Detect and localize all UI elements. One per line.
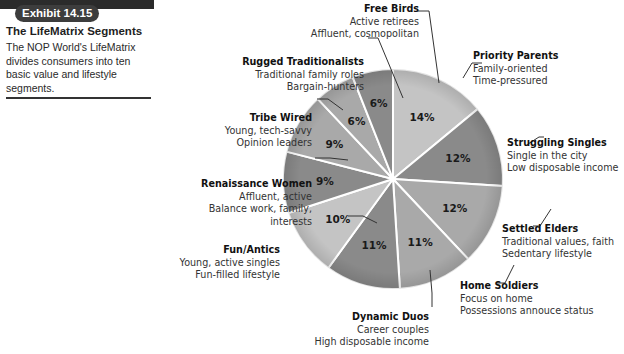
- segment-trait: Affluent, cosmopolitan: [311, 28, 419, 41]
- label-fun-antics: Fun/Antics Young, active singles Fun-fil…: [180, 244, 280, 282]
- label-tribe-wired: Tribe Wired Young, tech-savvy Opinion le…: [225, 112, 312, 150]
- segment-name: Dynamic Duos: [314, 311, 429, 324]
- segment-trait: Young, active singles: [180, 257, 280, 270]
- slice-percent: 6%: [348, 115, 366, 127]
- slice-percent: 9%: [316, 175, 334, 187]
- slice-percent: 12%: [442, 202, 468, 214]
- segment-trait: interests: [201, 216, 312, 229]
- slice-percent: 12%: [445, 152, 471, 164]
- segment-name: Tribe Wired: [225, 112, 312, 125]
- label-settled-elders: Settled Elders Traditional values, faith…: [502, 223, 614, 261]
- label-home-soldiers: Home Soldiers Focus on home Possessions …: [460, 280, 594, 318]
- slice-percent: 6%: [370, 97, 388, 109]
- segment-trait: Young, tech-savvy: [225, 125, 312, 138]
- segment-trait: Family-oriented: [473, 63, 558, 76]
- segment-name: Renaissance Women: [201, 178, 312, 191]
- label-struggling-singles: Struggling Singles Single in the city Lo…: [507, 137, 618, 175]
- segment-trait: Traditional values, faith: [502, 236, 614, 249]
- label-free-birds: Free Birds Active retirees Affluent, cos…: [311, 3, 419, 41]
- segment-trait: Career couples: [314, 324, 429, 337]
- segment-name: Free Birds: [311, 3, 419, 16]
- segment-trait: Sedentary lifestyle: [502, 248, 614, 261]
- segment-trait: Time-pressured: [473, 75, 558, 88]
- segment-name: Fun/Antics: [180, 244, 280, 257]
- segment-trait: Possessions annouce status: [460, 305, 594, 318]
- label-priority-parents: Priority Parents Family-oriented Time-pr…: [473, 50, 558, 88]
- segment-name: Priority Parents: [473, 50, 558, 63]
- segment-trait: Focus on home: [460, 293, 594, 306]
- slice-percent: 14%: [409, 111, 435, 123]
- slice-percent: 10%: [325, 213, 351, 225]
- segment-trait: Active retirees: [311, 16, 419, 29]
- segment-trait: Bargain-hunters: [242, 81, 364, 94]
- segment-trait: Affluent, active: [201, 191, 312, 204]
- slice-percent: 11%: [408, 236, 434, 248]
- label-rugged-traditionalists: Rugged Traditionalists Traditional famil…: [242, 56, 364, 94]
- label-renaissance-women: Renaissance Women Affluent, active Balan…: [201, 178, 312, 228]
- segment-trait: Traditional family roles: [242, 69, 364, 82]
- segment-trait: Single in the city: [507, 150, 618, 163]
- segment-trait: Balance work, family,: [201, 203, 312, 216]
- segment-name: Struggling Singles: [507, 137, 618, 150]
- segment-name: Rugged Traditionalists: [242, 56, 364, 69]
- segment-trait: Fun-filled lifestyle: [180, 269, 280, 282]
- slice-percent: 11%: [361, 239, 387, 251]
- segment-name: Settled Elders: [502, 223, 614, 236]
- segment-trait: High disposable income: [314, 336, 429, 349]
- segment-trait: Opinion leaders: [225, 137, 312, 150]
- slice-percent: 9%: [325, 138, 343, 150]
- segment-trait: Low disposable income: [507, 162, 618, 175]
- label-dynamic-duos: Dynamic Duos Career couples High disposa…: [314, 311, 429, 349]
- segment-name: Home Soldiers: [460, 280, 594, 293]
